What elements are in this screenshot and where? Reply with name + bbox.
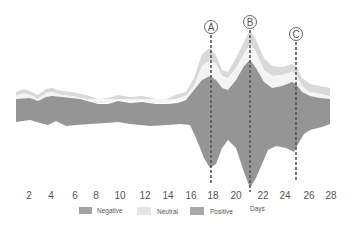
marker-c: C: [290, 28, 303, 41]
legend-swatch-positive: [190, 207, 204, 215]
legend-label-positive: Positive: [210, 208, 233, 215]
x-tick: 28: [325, 190, 337, 201]
legend-label-negative: Negative: [97, 207, 123, 215]
x-tick: 20: [230, 190, 242, 201]
legend-label-neutral: Neutral: [157, 208, 179, 215]
x-tick: 24: [279, 190, 291, 201]
legend-item-neutral: Neutral: [137, 207, 179, 215]
x-axis-title: Days: [250, 205, 266, 213]
legend: Negative Neutral Positive: [79, 207, 233, 215]
x-tick: 6: [72, 190, 78, 201]
marker-c-label: C: [292, 29, 299, 40]
marker-b: B: [244, 16, 257, 29]
marker-a: A: [205, 21, 218, 34]
x-tick: 2: [26, 190, 32, 201]
x-tick: 10: [114, 190, 126, 201]
x-axis-ticks: 2 4 6 8 10 12 14 16 18 20 22 24 26 28: [26, 190, 337, 201]
legend-swatch-neutral: [137, 207, 151, 215]
legend-item-positive: Positive: [190, 207, 233, 215]
marker-b-label: B: [247, 17, 254, 28]
x-tick: 16: [185, 190, 197, 201]
x-tick: 22: [257, 190, 269, 201]
legend-swatch-negative: [79, 207, 92, 214]
x-tick: 4: [48, 190, 54, 201]
x-tick: 14: [162, 190, 174, 201]
streamgraph-chart: A B C 2 4 6 8 10 12 14 16 18 20 22 24 26…: [0, 0, 352, 228]
legend-item-negative: Negative: [79, 207, 123, 215]
x-tick: 8: [93, 190, 99, 201]
x-tick: 18: [207, 190, 219, 201]
x-tick: 26: [303, 190, 315, 201]
x-tick: 12: [139, 190, 151, 201]
marker-a-label: A: [208, 22, 215, 33]
